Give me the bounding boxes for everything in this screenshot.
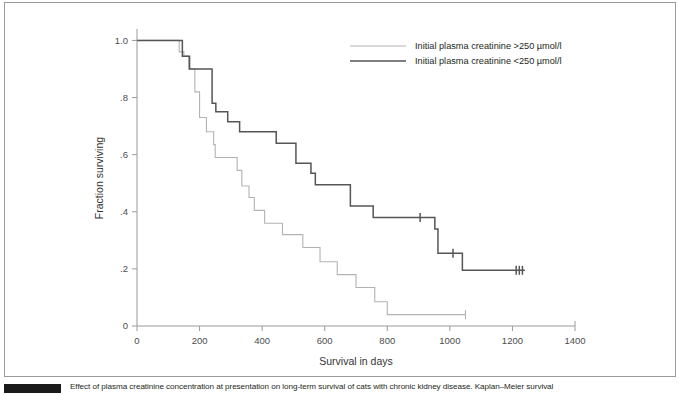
y-tick-label: .8: [120, 92, 128, 103]
y-tick-label: 0: [123, 320, 128, 331]
x-tick-label: 200: [192, 335, 208, 346]
y-tick-label: .6: [120, 149, 128, 160]
survival-chart-svg: 0.2.4.6.81.0 0200400600800100012001400 F…: [5, 3, 675, 376]
x-tick-label: 1000: [439, 335, 460, 346]
series-layer: [137, 40, 525, 319]
x-tick-label: 1200: [502, 335, 523, 346]
x-axis-title: Survival in days: [319, 355, 393, 367]
y-tick-label: .2: [120, 263, 128, 274]
x-tick-label: 800: [379, 335, 395, 346]
figure-number-badge: [4, 384, 61, 393]
x-tick-label: 0: [134, 335, 139, 346]
legend-label-0: Initial plasma creatinine >250 µmol/l: [415, 41, 562, 51]
y-tick-label: .4: [120, 206, 128, 217]
x-tick-label: 600: [317, 335, 333, 346]
x-axis-ticks: 0200400600800100012001400: [134, 326, 585, 346]
figure-root: 0.2.4.6.81.0 0200400600800100012001400 F…: [0, 0, 679, 395]
y-axis-ticks: 0.2.4.6.81.0: [115, 35, 137, 332]
legend-label-1: Initial plasma creatinine <250 µmol/l: [415, 56, 562, 66]
y-tick-label: 1.0: [115, 35, 128, 46]
figure-caption: Effect of plasma creatinine concentratio…: [4, 381, 676, 395]
series-step-line-0: [137, 40, 466, 314]
chart-legend: Initial plasma creatinine >250 µmol/lIni…: [350, 41, 562, 66]
figure-caption-text: Effect of plasma creatinine concentratio…: [70, 381, 553, 392]
y-axis-title: Fraction surviving: [93, 137, 105, 219]
chart-panel: 0.2.4.6.81.0 0200400600800100012001400 F…: [4, 2, 676, 377]
x-tick-label: 1400: [564, 335, 585, 346]
x-tick-label: 400: [254, 335, 270, 346]
